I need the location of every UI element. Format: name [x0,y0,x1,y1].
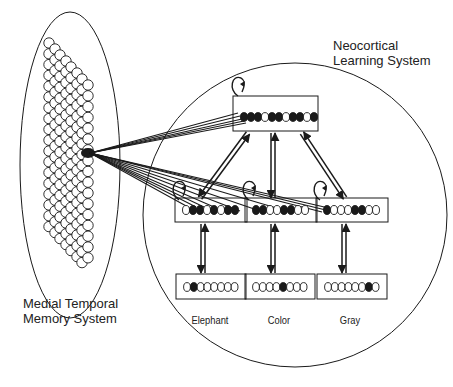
mid-unit [211,206,218,215]
mid-unit [295,206,302,215]
neocortical-label: Neocortical Learning System [333,38,431,68]
mid-unit [331,206,338,215]
hippocampal-unit [83,220,93,230]
input-unit [365,283,372,292]
input-unit [325,283,332,292]
input-unit [190,283,197,292]
top-unit [275,113,282,122]
input-unit [359,283,366,292]
top-unit [289,113,296,122]
hippocampal-unit [83,177,93,187]
hippocampal-unit [83,134,93,144]
top-unit [261,113,268,122]
mid-unit [225,206,232,215]
top-unit [310,113,317,122]
hippocampal-unit [83,80,93,90]
hippocampal-unit [83,231,93,241]
input-unit [224,283,231,292]
mid-unit [260,206,267,215]
hippocampal-unit-grid [44,38,95,268]
hippocampal-unit [83,101,93,111]
output-word-gray: Gray [325,314,376,326]
top-unit [254,113,261,122]
mid-unit [253,206,260,215]
hippocampal-unit [83,188,93,198]
input-unit [280,283,287,292]
input-unit [293,283,300,292]
top-unit [303,113,310,122]
recurrent-loop [314,181,326,200]
mid-unit [204,206,211,215]
hippocampal-unit [83,166,93,176]
mid-unit [373,206,380,215]
mid-unit [288,206,295,215]
input-unit [204,283,211,292]
mid-unit [359,206,366,215]
hippocampal-unit [83,91,93,101]
top-unit [282,113,289,122]
input-unit [287,283,294,292]
hippocampal-unit [83,112,93,122]
input-unit [372,283,379,292]
mid-unit [267,206,274,215]
input-unit [197,283,204,292]
top-unit [247,113,254,122]
top-unit [268,113,275,122]
mid-unit [302,206,309,215]
mid-unit [197,206,204,215]
mid-unit [183,206,190,215]
input-unit [338,283,345,292]
top-unit [296,113,303,122]
mid-unit [345,206,352,215]
input-unit [218,283,225,292]
mid-unit [190,206,197,215]
mid-unit [352,206,359,215]
hippocampal-unit [83,123,93,133]
mid-unit [366,206,373,215]
input-unit [345,283,352,292]
hippocampal-unit [83,242,93,252]
mid-unit [218,206,225,215]
input-unit [259,283,266,292]
output-word-elephant: Elephant [185,314,236,326]
input-unit [231,283,238,292]
hippocampal-unit [83,209,93,219]
mid-unit [281,206,288,215]
input-unit [273,283,280,292]
medial-temporal-label: Medial Temporal Memory System [23,296,118,326]
recurrent-loop [232,77,244,96]
top-unit [240,113,247,122]
hippocampal-unit [83,253,93,263]
input-unit [266,283,273,292]
mid-unit [338,206,345,215]
input-unit [211,283,218,292]
mid-unit [274,206,281,215]
mid-unit [232,206,239,215]
output-word-color: Color [254,314,305,326]
input-unit [352,283,359,292]
input-unit [300,283,307,292]
input-unit [184,283,191,292]
bidirectional-arrows [198,132,346,273]
hippocampal-unit [83,199,93,209]
hippocampal-projection-lines [90,113,346,212]
input-unit [331,283,338,292]
input-unit [253,283,260,292]
mid-unit [324,206,331,215]
